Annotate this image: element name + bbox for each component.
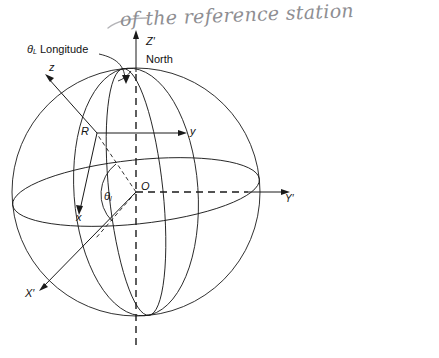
z-prime-label: Z′ [146,36,155,47]
point-r-label: R [81,126,89,137]
longitude-leader-arrowhead [122,75,130,84]
local-z-axis [48,78,97,133]
latitude-angle-label: θl [104,191,112,202]
local-y-label: y [190,126,196,137]
longitude-label: θL Longitude [27,44,88,55]
x-prime-axis [43,192,136,287]
figure-canvas: Z′ North θL Longitude z y x R O θl X′ Y′… [0,0,439,358]
y-prime-label: Y′ [285,194,294,204]
local-z-label: z [49,62,55,73]
equatorial-projection-dashed [96,192,136,238]
local-z-arrowhead [45,74,54,82]
local-x-axis [80,133,97,210]
north-label: North [146,54,173,65]
origin-o-label: O [141,181,150,192]
local-x-label: x [76,212,82,223]
x-prime-label: X′ [25,288,34,299]
x-prime-arrowhead [39,283,48,291]
local-y-arrowhead [178,130,187,136]
longitude-leader-line [99,54,125,78]
z-prime-arrowhead [133,30,139,39]
